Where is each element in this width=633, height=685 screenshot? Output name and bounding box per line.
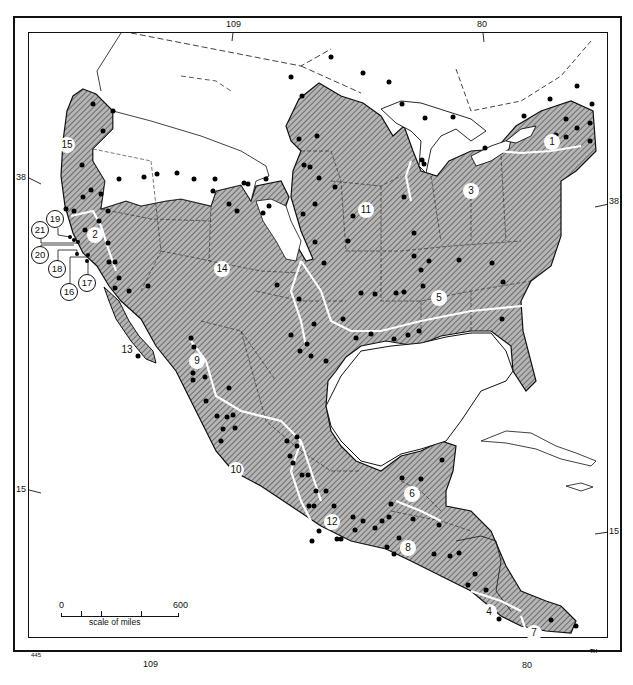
region-label-7: 7 <box>526 625 542 641</box>
region-label-8: 8 <box>400 540 416 556</box>
scale-caption: scale of miles <box>89 617 141 627</box>
site-callout-18: 18 <box>48 260 66 278</box>
site-callout-20: 20 <box>31 246 49 264</box>
site-callout-21: 21 <box>31 221 49 239</box>
region-label-10: 10 <box>228 462 244 478</box>
region-label-2: 2 <box>87 227 103 243</box>
map-canvas <box>29 33 608 638</box>
jamaica <box>566 483 593 491</box>
region-label-14: 14 <box>214 261 230 277</box>
longitude-label-top-109: 109 <box>226 19 241 29</box>
scale-start-label: 0 <box>59 600 64 610</box>
region-label-5: 5 <box>431 290 447 306</box>
site-callout-19: 19 <box>46 210 64 228</box>
region-label-11: 11 <box>358 202 374 218</box>
site-callout-17: 17 <box>78 274 96 292</box>
cuba <box>481 431 596 466</box>
region-label-4: 4 <box>481 604 497 620</box>
site-callout-16: 16 <box>60 283 78 301</box>
latitude-label-right-15: 15 <box>609 526 619 536</box>
region-label-3: 3 <box>463 183 479 199</box>
region-label-1: 1 <box>544 134 560 150</box>
region-label-13: 13 <box>119 342 135 358</box>
map-panel <box>28 32 608 638</box>
region-label-15: 15 <box>59 137 75 153</box>
figure-code: 445 <box>31 652 41 658</box>
region-label-6: 6 <box>404 486 420 502</box>
latitude-label-left-38: 38 <box>16 172 26 182</box>
longitude-label-bottom-80: 80 <box>522 660 532 670</box>
longitude-label-top-80: 80 <box>477 19 487 29</box>
latitude-label-right-38: 38 <box>609 196 619 206</box>
scale-tick <box>81 611 82 617</box>
latitude-label-left-15: 15 <box>16 484 26 494</box>
region-label-12: 12 <box>324 514 340 530</box>
cartographer-credit: TH <box>590 648 597 654</box>
scale-tick <box>141 611 142 617</box>
region-label-9: 9 <box>189 353 205 369</box>
longitude-label-bottom-109: 109 <box>143 659 158 669</box>
scale-end-label: 600 <box>173 600 188 610</box>
